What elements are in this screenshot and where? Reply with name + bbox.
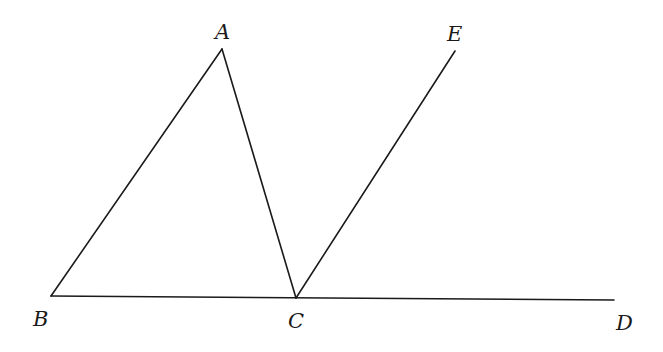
segment-BD (51, 296, 614, 300)
geometry-diagram: A E B C D (0, 0, 663, 352)
segment-CE (296, 51, 455, 298)
segment-AB (51, 49, 222, 296)
segment-AC (222, 49, 296, 298)
label-D: D (615, 311, 633, 335)
label-C: C (288, 309, 304, 333)
label-B: B (32, 307, 48, 331)
label-E: E (446, 22, 462, 46)
label-A: A (213, 20, 230, 44)
